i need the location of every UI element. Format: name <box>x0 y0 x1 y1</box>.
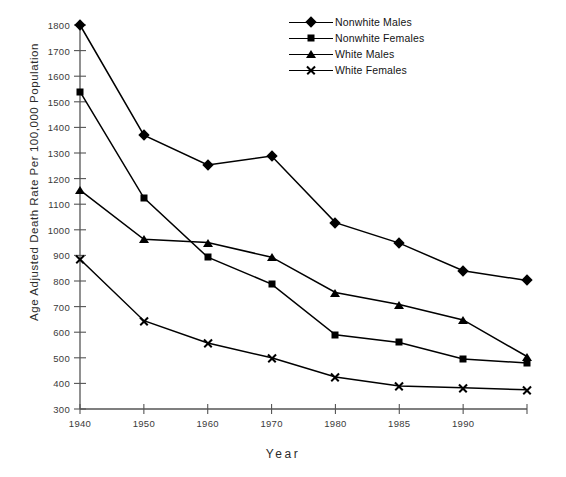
point-triangle <box>75 186 85 194</box>
point-x <box>458 382 469 393</box>
square-icon <box>308 35 315 42</box>
legend-item-1: Nonwhite Females <box>289 30 424 46</box>
legend-label: Nonwhite Males <box>333 16 412 28</box>
point-x <box>522 384 533 395</box>
legend: Nonwhite MalesNonwhite FemalesWhite Male… <box>289 14 424 78</box>
legend-key-x <box>289 62 333 78</box>
point-x <box>202 337 213 348</box>
point-triangle <box>203 239 213 247</box>
point-x <box>394 380 405 391</box>
point-triangle <box>139 235 149 243</box>
point-square <box>268 281 275 288</box>
point-triangle <box>394 301 404 309</box>
legend-label: White Males <box>333 48 394 60</box>
point-square <box>460 356 467 363</box>
point-square <box>332 331 339 338</box>
triangle-icon <box>306 50 316 58</box>
legend-label: White Females <box>333 64 407 76</box>
legend-item-3: White Females <box>289 62 424 78</box>
point-x <box>330 372 341 383</box>
legend-key-triangle <box>289 46 333 62</box>
diamond-icon <box>305 16 316 27</box>
legend-item-2: White Males <box>289 46 424 62</box>
legend-item-0: Nonwhite Males <box>289 14 424 30</box>
chart-container: Age Adjusted Death Rate Per 100,000 Popu… <box>0 0 566 477</box>
point-square <box>396 339 403 346</box>
point-triangle <box>458 316 468 324</box>
point-square <box>140 194 147 201</box>
plot-area <box>0 0 566 477</box>
point-x <box>138 315 149 326</box>
point-x <box>266 352 277 363</box>
point-triangle <box>267 253 277 261</box>
x-icon <box>306 65 317 76</box>
point-triangle <box>330 289 340 297</box>
point-triangle <box>522 353 532 361</box>
point-square <box>77 88 84 95</box>
legend-key-square <box>289 30 333 46</box>
legend-key-diamond <box>289 14 333 30</box>
point-square <box>204 254 211 261</box>
point-x <box>75 254 86 265</box>
legend-label: Nonwhite Females <box>333 32 424 44</box>
